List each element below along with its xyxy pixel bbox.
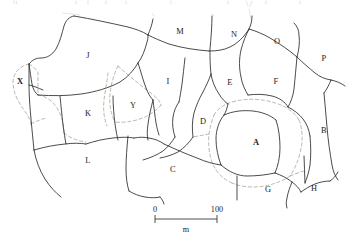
parcel-label-O: O (274, 37, 280, 46)
parcel-label-E: E (227, 78, 232, 87)
parcel-label-J: J (86, 51, 90, 60)
top-edge-artifacts (14, 1, 300, 19)
parcel-label-X: X (17, 77, 23, 86)
scale-bar: 0 100 m (153, 205, 223, 234)
parcel-label-A: A (253, 138, 259, 147)
parcel-label-G: G (265, 185, 271, 194)
parcel-label-N: N (231, 30, 237, 39)
parcel-label-F: F (274, 77, 279, 86)
parcel-label-M: M (176, 27, 184, 36)
parcel-label-P: P (322, 54, 327, 63)
parcel-label-H: H (311, 184, 317, 193)
scale-label-zero: 0 (153, 205, 157, 214)
parcel-label-I: I (167, 77, 170, 86)
parcel-label-D: D (200, 117, 206, 126)
parcel-boundaries (29, 16, 345, 208)
parcel-map-figure: J M N O P X I E F K Y D A B L C G H 0 10… (0, 0, 351, 241)
parcel-label-B: B (321, 126, 327, 135)
scale-label-max: 100 (211, 205, 223, 214)
parcel-label-C: C (170, 165, 176, 174)
scale-unit-label: m (183, 225, 190, 234)
overlay-boundaries (13, 64, 304, 187)
map-canvas: J M N O P X I E F K Y D A B L C G H 0 10… (0, 0, 351, 241)
parcel-labels: J M N O P X I E F K Y D A B L C G H (17, 27, 327, 194)
parcel-label-Y: Y (130, 101, 136, 110)
parcel-label-L: L (85, 156, 90, 165)
parcel-label-K: K (85, 109, 91, 118)
